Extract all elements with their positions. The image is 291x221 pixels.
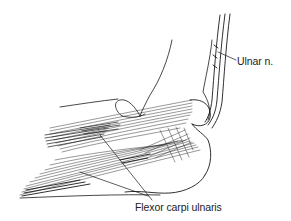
flexor-muscle-lower [20,140,200,195]
label-flexor-carpi-ulnaris: Flexor carpi ulnaris [135,201,222,213]
humerus-outline [60,40,212,120]
elbow-anatomy-illustration [0,0,291,221]
forearm-outline [20,195,160,198]
label-ulnar-nerve: Ulnar n. [237,55,273,67]
pronator-fibers [140,127,193,162]
muscle-shading-left [45,122,120,147]
ulnar-nerve-bundle [205,14,230,128]
